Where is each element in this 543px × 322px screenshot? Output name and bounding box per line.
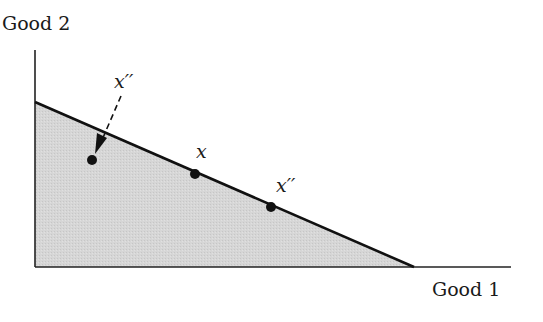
label-x-double-prime-line: x′′ [276, 176, 295, 195]
dashed-arrow-shaft [102, 96, 121, 140]
diagram-svg [0, 0, 543, 322]
point-x-double-prime [266, 202, 276, 212]
label-x: x [196, 142, 207, 161]
label-x-double-prime-top: x′′ [114, 72, 133, 91]
point-x [190, 169, 200, 179]
budget-set-diagram: Good 2 Good 1 x′′ x x′′ [0, 0, 543, 322]
x-axis-label: Good 1 [432, 280, 500, 299]
y-axis-label: Good 2 [2, 14, 70, 33]
interior-point [87, 155, 97, 165]
